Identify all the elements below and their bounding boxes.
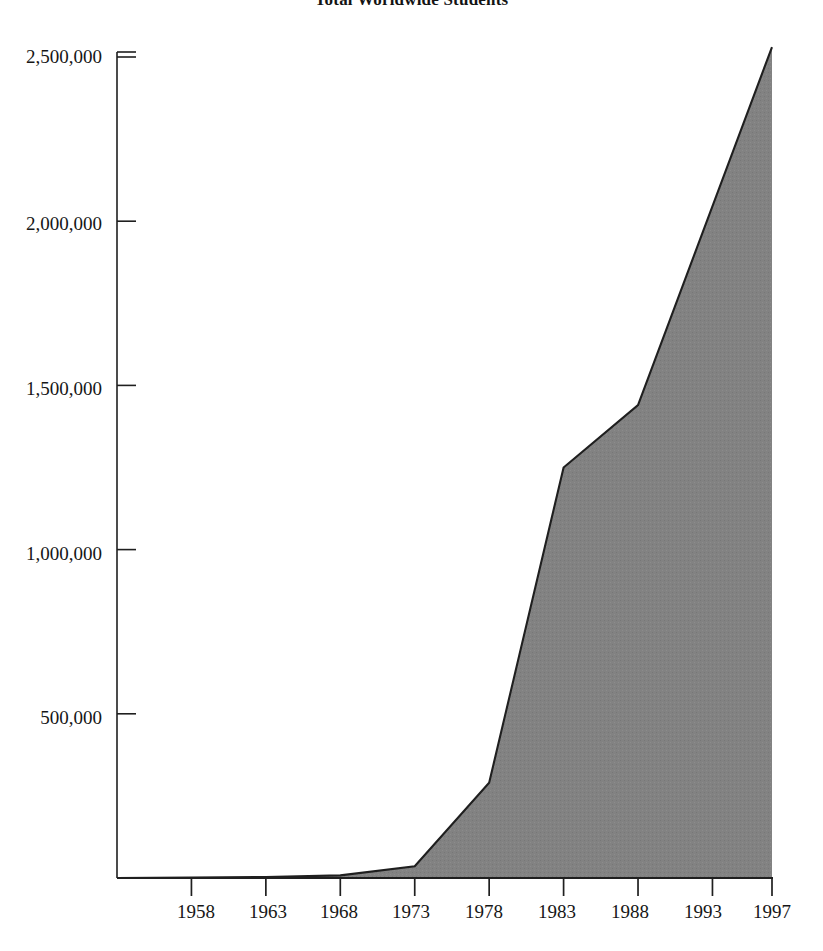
area-series-fill	[117, 47, 772, 878]
x-axis-ticks	[191, 878, 772, 896]
chart-figure: Total Worldwide Students 2,500,000 2,000…	[0, 0, 823, 951]
plot-area	[0, 0, 823, 951]
y-axis-ticks	[117, 57, 136, 714]
